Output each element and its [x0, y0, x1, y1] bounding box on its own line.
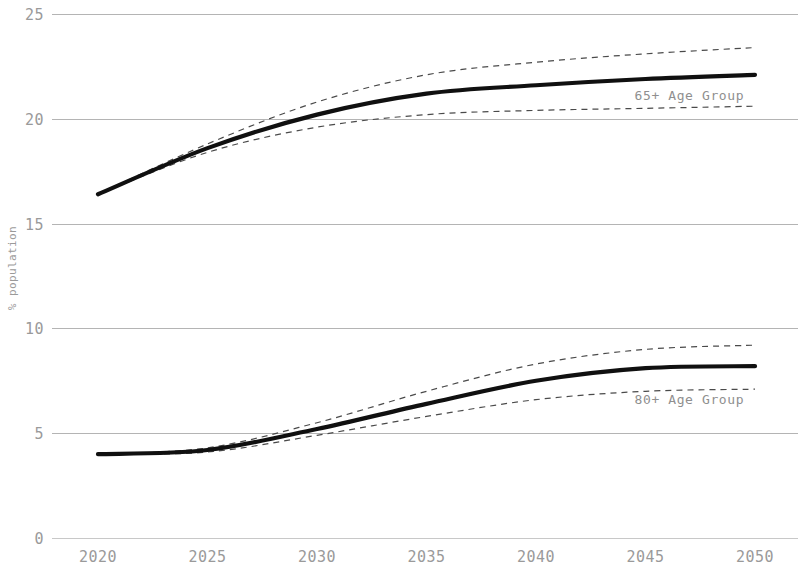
x-tick-label-2020: 2020 — [79, 548, 117, 566]
y-tick-label-5: 5 — [34, 425, 44, 443]
x-tick-label-2030: 2030 — [298, 548, 336, 566]
y-tick-label-25: 25 — [25, 6, 44, 24]
ci-upper-series-0 — [98, 48, 755, 195]
series-line-1 — [98, 366, 755, 454]
y-tick-label-15: 15 — [25, 216, 44, 234]
y-tick-label-10: 10 — [25, 320, 44, 338]
series-annotations-group: 65+ Age Group80+ Age Group — [635, 88, 745, 407]
y-tick-label-20: 20 — [25, 111, 44, 129]
y-axis-tick-labels: 0510152025 — [25, 6, 44, 548]
x-tick-label-2040: 2040 — [517, 548, 555, 566]
y-axis-title: % population — [6, 226, 19, 310]
x-tick-label-2050: 2050 — [736, 548, 774, 566]
chart-container: 0510152025 2020202520302035204020452050 … — [0, 0, 798, 576]
x-tick-label-2025: 2025 — [188, 548, 226, 566]
series-annotation-0: 65+ Age Group — [635, 88, 745, 103]
y-tick-label-0: 0 — [34, 530, 44, 548]
x-axis-tick-labels: 2020202520302035204020452050 — [79, 548, 774, 566]
x-tick-label-2035: 2035 — [407, 548, 445, 566]
population-projection-line-chart: 0510152025 2020202520302035204020452050 … — [0, 0, 798, 576]
series-annotation-1: 80+ Age Group — [635, 392, 745, 407]
x-tick-label-2045: 2045 — [626, 548, 664, 566]
